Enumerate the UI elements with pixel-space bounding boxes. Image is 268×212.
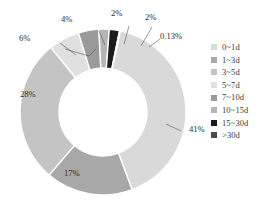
legend-item-label: 15~30d bbox=[222, 117, 248, 130]
legend-item-label: 10~15d bbox=[222, 104, 248, 117]
legend-item-label: >30d bbox=[222, 129, 240, 142]
legend-item-label: 1~3d bbox=[222, 54, 240, 67]
legend-item[interactable]: 7~10d bbox=[211, 91, 267, 104]
legend-item-label: 5~7d bbox=[222, 79, 240, 92]
legend-item-label: 7~10d bbox=[222, 91, 244, 104]
legend-swatch-icon bbox=[211, 120, 217, 126]
legend-item[interactable]: 15~30d bbox=[211, 117, 267, 130]
donut-slices bbox=[20, 29, 186, 195]
data-label-4: 4% bbox=[61, 14, 72, 24]
data-label-013: 0.13% bbox=[160, 31, 182, 41]
leader-line-013 bbox=[149, 39, 160, 47]
data-label-28: 28% bbox=[20, 89, 36, 99]
legend-item[interactable]: 1~3d bbox=[211, 54, 267, 67]
data-label-2a: 2% bbox=[111, 8, 122, 18]
data-label-17: 17% bbox=[64, 168, 80, 178]
data-label-6: 6% bbox=[19, 33, 30, 43]
legend-item[interactable]: >30d bbox=[211, 129, 267, 142]
legend-swatch-icon bbox=[211, 57, 217, 63]
chart-legend: 0~1d1~3d3~5d5~7d7~10d10~15d15~30d>30d bbox=[211, 41, 267, 142]
legend-swatch-icon bbox=[211, 82, 217, 88]
legend-swatch-icon bbox=[211, 44, 217, 50]
legend-item[interactable]: 10~15d bbox=[211, 104, 267, 117]
legend-item[interactable]: 5~7d bbox=[211, 79, 267, 92]
data-label-2b: 2% bbox=[145, 12, 156, 22]
legend-swatch-icon bbox=[211, 107, 217, 113]
legend-item[interactable]: 0~1d bbox=[211, 41, 267, 54]
legend-item[interactable]: 3~5d bbox=[211, 66, 267, 79]
legend-swatch-icon bbox=[211, 132, 217, 138]
legend-swatch-icon bbox=[211, 69, 217, 75]
legend-item-label: 0~1d bbox=[222, 41, 240, 54]
legend-item-label: 3~5d bbox=[222, 66, 240, 79]
donut-chart: 41% 17% 28% 6% 4% 2% 2% 0.13% 0~1d1~3d3~… bbox=[0, 0, 268, 212]
legend-swatch-icon bbox=[211, 95, 217, 101]
data-label-41: 41% bbox=[189, 124, 205, 134]
